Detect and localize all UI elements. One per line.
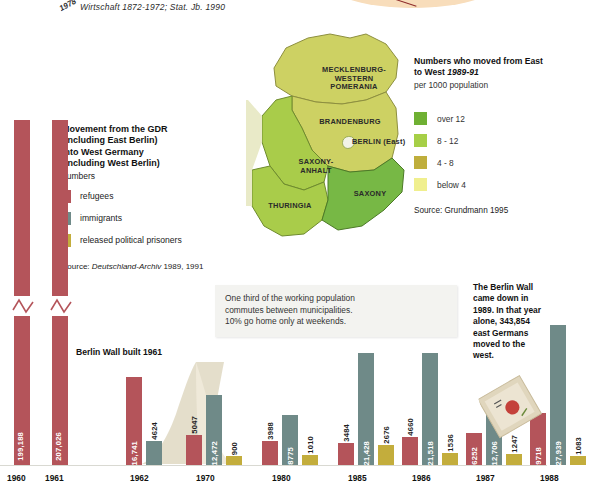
commuting-callout: One third of the working population comm…: [215, 285, 457, 337]
bar-1962-immigrants[interactable]: 4624: [146, 441, 162, 465]
x-label-1960: 1960: [7, 473, 26, 483]
commuting-callout-line-3: 10% go home only at weekends.: [225, 316, 447, 328]
bar-group-1988: 9718 27,939 1083: [530, 325, 590, 465]
bar-1970-refugees[interactable]: 5047: [186, 435, 202, 465]
legend-item-prisoners: released political prisoners: [62, 234, 237, 247]
bar-group-1962: 16,741 4624: [126, 373, 166, 465]
bar-1985-refugees[interactable]: 3484: [338, 443, 354, 465]
commuting-callout-line-2: commutes between municipalities.: [225, 305, 447, 317]
bar-1988-prisoners[interactable]: 1083: [570, 456, 586, 465]
map-legend-item-4-8: 4 - 8: [414, 156, 544, 169]
bar-group-1980: 3988 8775 1010: [262, 373, 322, 465]
map-svg: [246, 30, 422, 265]
bar-value-1986-immigrants: 21,518: [426, 439, 435, 465]
bar-value-1962-immigrants: 4624: [150, 420, 159, 440]
top-source-line: Wirtschaft 1872-1972; Stat. Jb. 1990: [80, 2, 225, 12]
east-germany-map[interactable]: MECKLENBURG- WESTERN POMERANIA BRANDENBU…: [246, 30, 422, 265]
map-legend-label-below4: below 4: [437, 180, 466, 190]
map-legend-source: Source: Grundmann 1995: [414, 206, 508, 215]
bar-1985-immigrants[interactable]: 21,428: [358, 353, 374, 465]
bar-value-1970-immigrants: 12,472: [210, 439, 219, 465]
legend-label-immigrants: immigrants: [80, 213, 122, 223]
legend-title-line-3: into West Germany: [62, 147, 237, 158]
decorative-curve: [367, 0, 416, 16]
legend-title: Movement from the GDR (including East Be…: [62, 124, 237, 170]
bar-value-1980-prisoners: 1010: [306, 434, 315, 454]
bar-1987-refugees[interactable]: 6252: [466, 433, 482, 465]
axis-break-1960-icon: [12, 296, 34, 316]
legend-title-line-2: (including East Berlin): [62, 135, 237, 146]
legend-source-suffix: 1989, 1991: [161, 262, 203, 271]
legend-title-line-4: (including West Berlin): [62, 158, 237, 169]
bar-value-1987-refugees: 6252: [470, 445, 479, 465]
bar-value-1970-prisoners: 900: [230, 440, 239, 455]
x-label-1988: 1988: [540, 473, 559, 483]
bar-1980-refugees[interactable]: 3988: [262, 441, 278, 465]
bar-group-1986: 4660 21,518 1536: [402, 349, 462, 465]
bar-1986-refugees[interactable]: 4660: [402, 437, 418, 465]
legend-item-refugees: refugees: [62, 190, 237, 203]
legend-label-prisoners: released political prisoners: [80, 235, 182, 245]
bar-1988-immigrants[interactable]: 27,939: [550, 325, 566, 465]
bar-1970-prisoners[interactable]: 900: [226, 456, 242, 465]
bar-value-1986-prisoners: 1536: [446, 432, 455, 452]
bar-value-1985-refugees: 3484: [342, 422, 351, 442]
bar-value-1985-prisoners: 2676: [382, 424, 391, 444]
bar-1962-refugees[interactable]: 16,741: [126, 377, 142, 465]
map-legend-swatch-4-8: [414, 156, 427, 169]
bar-1986-prisoners[interactable]: 1536: [442, 453, 458, 465]
map-legend-title: Numbers who moved from East to West 1989…: [414, 56, 544, 78]
x-label-1986: 1986: [412, 473, 431, 483]
bar-1980-immigrants[interactable]: 8775: [282, 415, 298, 465]
bar-value-1988-refugees: 9718: [534, 445, 543, 465]
bar-1970-immigrants[interactable]: 12,472: [206, 395, 222, 465]
x-label-1970: 1970: [196, 473, 215, 483]
map-legend-label-over12: over 12: [437, 114, 465, 124]
map-legend: Numbers who moved from East to West 1989…: [414, 56, 544, 191]
x-label-1985: 1985: [348, 473, 367, 483]
map-legend-title-years: 1989-91: [447, 67, 479, 77]
legend-item-immigrants: immigrants: [62, 212, 237, 225]
commuting-callout-line-1: One third of the working population: [225, 293, 447, 305]
axis-break-1961-icon: [50, 296, 72, 316]
bar-1987-prisoners[interactable]: 1247: [506, 454, 522, 465]
map-legend-subtitle: per 1000 population: [414, 80, 544, 90]
map-legend-swatch-8-12: [414, 134, 427, 147]
x-label-1961: 1961: [45, 473, 64, 483]
map-legend-item-below4: below 4: [414, 178, 544, 191]
bar-value-1985-immigrants: 21,428: [362, 439, 371, 465]
bar-value-1980-immigrants: 8775: [286, 445, 295, 465]
legend-subtitle: numbers: [62, 171, 237, 181]
bar-1985-prisoners[interactable]: 2676: [378, 445, 394, 465]
x-label-1987: 1987: [476, 473, 495, 483]
migration-bar-chart: 1960 1961 16,741 4624 1962 5047 12,472 9…: [0, 348, 547, 491]
map-region-mecklenburg: [274, 34, 398, 104]
legend-label-refugees: refugees: [80, 191, 113, 201]
bar-group-1985: 3484 21,428 2676: [338, 349, 398, 465]
map-legend-item-over12: over 12: [414, 112, 544, 125]
legend-title-line-1: Movement from the GDR: [62, 124, 237, 135]
bar-value-1988-immigrants: 27,939: [554, 439, 563, 465]
bar-group-1970: 5047 12,472 900: [186, 373, 246, 465]
map-legend-label-8-12: 8 - 12: [437, 136, 458, 146]
bar-value-1970-refugees: 5047: [190, 414, 199, 434]
map-legend-label-4-8: 4 - 8: [437, 158, 454, 168]
bar-value-1980-refugees: 3988: [266, 420, 275, 440]
legend-source: Source: Deutschland-Archiv 1989, 1991: [62, 262, 203, 271]
bar-1980-prisoners[interactable]: 1010: [302, 455, 318, 465]
bar-value-1962-refugees: 16,741: [130, 439, 139, 465]
legend-source-title: Deutschland-Archiv: [92, 262, 161, 271]
map-legend-swatch-over12: [414, 112, 427, 125]
bar-value-1988-prisoners: 1083: [574, 435, 583, 455]
map-legend-swatch-below4: [414, 178, 427, 191]
x-label-1962: 1962: [130, 473, 149, 483]
movement-legend: Movement from the GDR (including East Be…: [62, 124, 237, 247]
bar-1986-immigrants[interactable]: 21,518: [422, 353, 438, 465]
map-legend-item-8-12: 8 - 12: [414, 134, 544, 147]
bar-value-1986-refugees: 4660: [406, 416, 415, 436]
x-label-1980: 1980: [272, 473, 291, 483]
